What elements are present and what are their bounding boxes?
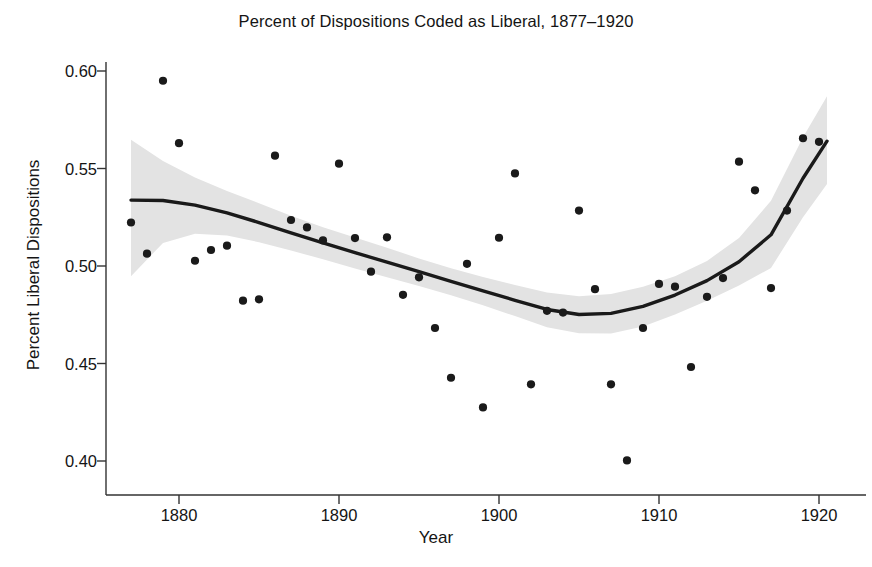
data-point (175, 139, 183, 147)
data-point (319, 236, 327, 244)
data-point (287, 216, 295, 224)
data-point (479, 403, 487, 411)
data-point (767, 284, 775, 292)
x-tick-label: 1910 (619, 506, 699, 525)
data-point (799, 134, 807, 142)
x-tick-label: 1900 (459, 506, 539, 525)
x-tick-label: 1890 (299, 506, 379, 525)
y-tick-label: 0.50 (37, 257, 97, 276)
y-tick-label: 0.55 (37, 159, 97, 178)
y-tick-label: 0.60 (37, 62, 97, 81)
data-point (447, 374, 455, 382)
data-point (687, 363, 695, 371)
y-axis-title: Percent Liberal Dispositions (24, 65, 44, 465)
data-point (735, 158, 743, 166)
x-axis-title: Year (0, 528, 872, 548)
x-tick-marks (179, 495, 819, 504)
data-point (335, 160, 343, 168)
data-point (415, 273, 423, 281)
data-point (143, 250, 151, 258)
data-point (495, 234, 503, 242)
data-point (223, 242, 231, 250)
data-point (607, 380, 615, 388)
data-point (367, 268, 375, 276)
data-point (591, 285, 599, 293)
data-point (623, 456, 631, 464)
data-point (543, 307, 551, 315)
data-point (431, 324, 439, 332)
plot-canvas (0, 0, 872, 567)
y-tick-label: 0.45 (37, 354, 97, 373)
data-point (127, 218, 135, 226)
data-point (639, 324, 647, 332)
data-point (751, 186, 759, 194)
data-point (783, 207, 791, 215)
y-tick-labels: 0.400.450.500.550.60 (0, 0, 97, 567)
data-point (271, 152, 279, 160)
data-point (399, 291, 407, 299)
data-point (511, 169, 519, 177)
chart-figure: Percent of Dispositions Coded as Liberal… (0, 0, 872, 567)
y-tick-marks (97, 71, 106, 461)
data-point (239, 297, 247, 305)
data-point (159, 77, 167, 85)
data-point (207, 246, 215, 254)
x-tick-label: 1920 (779, 506, 859, 525)
data-point (703, 293, 711, 301)
data-point (463, 260, 471, 268)
data-point (655, 280, 663, 288)
data-point (383, 233, 391, 241)
data-point (255, 295, 263, 303)
y-tick-label: 0.40 (37, 452, 97, 471)
data-point (527, 380, 535, 388)
x-tick-label: 1880 (139, 506, 219, 525)
data-point (671, 283, 679, 291)
data-point (815, 138, 823, 146)
data-point (351, 234, 359, 242)
data-point (303, 223, 311, 231)
data-point (575, 207, 583, 215)
data-point (191, 257, 199, 265)
data-point (559, 309, 567, 317)
data-point (719, 274, 727, 282)
